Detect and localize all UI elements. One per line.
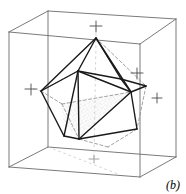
wireframe-cube [9, 11, 176, 177]
tick-top-icon [90, 21, 102, 32]
figure-panel: (b) [0, 0, 186, 194]
edge-apex-left [41, 38, 96, 91]
polyhedron-in-box-diagram [0, 0, 186, 194]
cube-depth-edges [9, 11, 176, 177]
tick-right-icon [152, 93, 162, 103]
edge-uppermidleft-uppermidright [78, 71, 121, 79]
edge-apex-uppermidleft [78, 38, 96, 71]
tick-bottom-icon [89, 155, 99, 163]
cube-edge-depth-bottom-left [9, 147, 48, 167]
cube-edge-front-bottom [9, 167, 140, 177]
edge-apex-rightnode [96, 38, 131, 92]
hidden-edge-backlow-bottom [79, 139, 108, 147]
edge-rightnode-backright [131, 86, 146, 92]
cube-edge-depth-bottom-right [140, 157, 176, 177]
panel-label: (b) [166, 179, 180, 191]
cube-edge-back-top [48, 11, 176, 19]
cube-edge-back-bottom [48, 147, 176, 157]
guide-box-diagonal [48, 147, 118, 174]
hidden-edge-backright-lowerright [137, 86, 146, 129]
cube-edge-depth-top-right [140, 19, 176, 44]
edge-rightnode-lowerright [131, 92, 137, 129]
cube-edge-front-top [9, 32, 140, 44]
edge-uppermidleft-bottom [78, 71, 79, 139]
cube-edge-depth-top-left [9, 11, 48, 32]
